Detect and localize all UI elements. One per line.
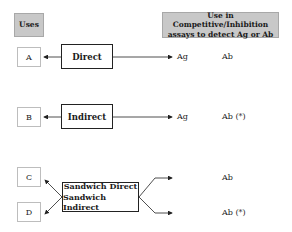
method-box-direct: Direct [61, 44, 113, 69]
method-box-indirect: Indirect [61, 104, 113, 129]
competitive-header: Use in Competitive/Inhibition assays to … [162, 12, 279, 38]
use-label: D [26, 208, 32, 217]
use-label: C [26, 173, 32, 182]
competitive-label: Ab (*) [222, 208, 246, 217]
uses-header-label: Uses [19, 20, 39, 29]
target-label: Ag [177, 112, 188, 121]
use-label: A [26, 53, 32, 62]
method-box-sandwich: Sandwich Direct Sandwich Indirect [62, 182, 139, 212]
use-label: B [26, 113, 32, 122]
use-box-a: A [17, 47, 41, 67]
method-label: Sandwich Indirect [63, 192, 138, 214]
use-box-c: C [17, 167, 41, 187]
method-label: Indirect [68, 112, 106, 122]
method-label: Sandwich Direct [64, 181, 138, 192]
method-label: Direct [72, 52, 102, 62]
competitive-label: Ab (*) [222, 112, 246, 121]
uses-header: Uses [14, 13, 44, 37]
competitive-label: Ab [222, 52, 233, 61]
competitive-label: Ab [222, 173, 233, 182]
use-box-d: D [17, 202, 41, 222]
competitive-header-label: Use in Competitive/Inhibition assays to … [166, 11, 275, 39]
target-label: Ag [177, 52, 188, 61]
use-box-b: B [17, 107, 41, 127]
